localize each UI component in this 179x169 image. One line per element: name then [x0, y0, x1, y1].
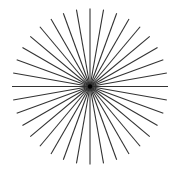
radial-star-diagram: [0, 0, 179, 169]
center-hub: [88, 84, 92, 88]
